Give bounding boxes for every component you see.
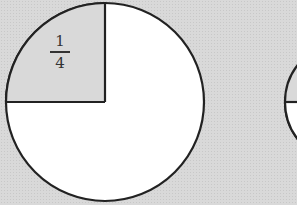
fraction-numerator: 1 bbox=[55, 32, 65, 50]
fraction-circles-diagram bbox=[0, 0, 297, 205]
fraction-bar bbox=[50, 51, 70, 53]
fraction-denominator: 4 bbox=[55, 54, 65, 72]
fraction-label: 1 4 bbox=[46, 33, 74, 71]
